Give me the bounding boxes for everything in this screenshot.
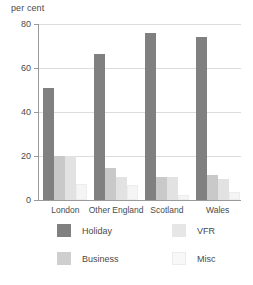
y-tick-label: 80 (21, 19, 31, 29)
bar-misc[interactable] (178, 195, 189, 201)
y-tick-label: 40 (21, 107, 31, 117)
x-axis-label: Other England (89, 205, 144, 215)
bar-vfr[interactable] (116, 177, 127, 200)
bar-vfr[interactable] (218, 179, 229, 200)
bar-group (196, 24, 240, 200)
plot-area: 020406080 (38, 24, 241, 201)
y-tick-label: 60 (21, 63, 31, 73)
bar-holiday[interactable] (94, 54, 105, 200)
bar-group (43, 24, 87, 200)
bar-vfr[interactable] (65, 156, 76, 200)
bar-holiday[interactable] (196, 37, 207, 200)
bar-holiday[interactable] (43, 88, 54, 200)
y-axis-line (38, 24, 39, 201)
bar-misc[interactable] (127, 185, 138, 200)
y-tick-label: 20 (21, 151, 31, 161)
y-axis-title: per cent (11, 3, 44, 13)
legend-item-misc[interactable]: Misc (172, 252, 216, 265)
x-axis-label: Wales (206, 205, 229, 215)
bar-group (145, 24, 189, 200)
legend-item-business[interactable]: Business (57, 252, 119, 265)
legend-label: VFR (197, 226, 215, 236)
bar-vfr[interactable] (167, 177, 178, 200)
legend-swatch-misc (172, 252, 186, 265)
bar-misc[interactable] (76, 184, 87, 201)
bar-business[interactable] (207, 175, 218, 200)
legend-item-holiday[interactable]: Holiday (57, 224, 112, 237)
legend-label: Holiday (82, 226, 112, 236)
x-axis-label: Scotland (150, 205, 183, 215)
legend-swatch-holiday (57, 224, 71, 237)
legend-swatch-business (57, 252, 71, 265)
x-axis-line (38, 200, 241, 201)
bar-business[interactable] (54, 156, 65, 200)
chart-legend: HolidayBusinessVFRMisc (0, 222, 253, 280)
legend-swatch-vfr (172, 224, 186, 237)
legend-item-vfr[interactable]: VFR (172, 224, 215, 237)
y-tick-label: 0 (26, 195, 31, 205)
x-axis-label: London (51, 205, 79, 215)
bar-holiday[interactable] (145, 33, 156, 200)
bar-misc[interactable] (229, 192, 240, 200)
legend-label: Business (82, 254, 119, 264)
legend-label: Misc (197, 254, 216, 264)
bar-group (94, 24, 138, 200)
bar-chart: per cent 020406080 LondonOther EnglandSc… (0, 0, 253, 285)
bar-business[interactable] (156, 177, 167, 200)
bar-business[interactable] (105, 168, 116, 200)
